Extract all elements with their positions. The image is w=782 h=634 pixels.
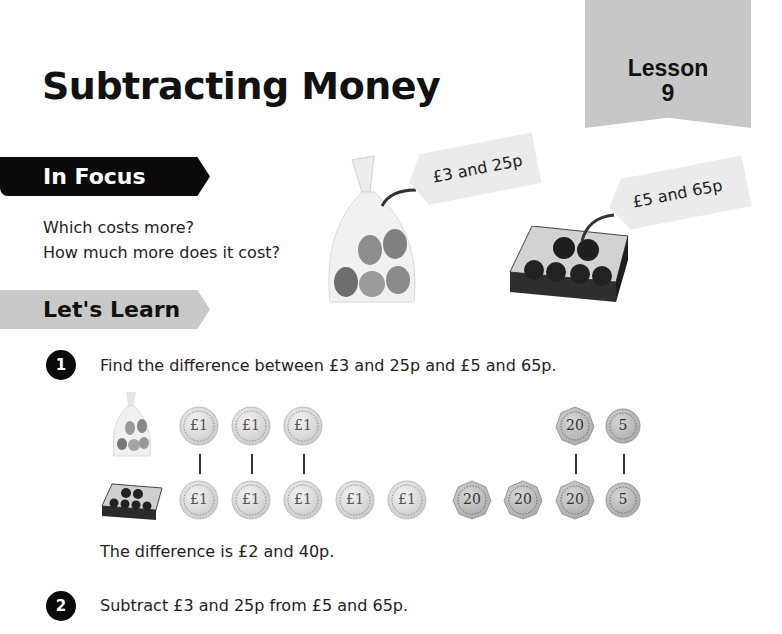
page-title: Subtracting Money [42,64,440,108]
coin-five-pence: 5 [605,406,641,446]
step-number-2: 2 [46,591,76,621]
coin-one-pound: £1 [231,480,271,520]
step-1-instruction: Find the difference between £3 and 25p a… [100,356,557,375]
in-focus-heading: In Focus [43,164,146,189]
lesson-tab: Lesson 9 [585,0,751,128]
coin-one-pound: £1 [231,406,271,446]
coin-one-pound: £1 [283,406,323,446]
apple-box-small-icon [100,482,164,524]
coin-twenty-pence: 20 [452,480,492,520]
pear-bag-small-icon [110,390,154,460]
tag-string-icon [578,205,618,245]
match-line [575,454,577,474]
coin-one-pound: £1 [283,480,323,520]
coin-twenty-pence: 20 [555,480,595,520]
price-tag-apples: £5 and 65p [604,155,751,233]
lesson-number: 9 [585,81,751,105]
match-line [623,454,625,474]
match-line [251,454,253,474]
in-focus-banner: In Focus [0,157,210,196]
coin-twenty-pence: 20 [503,480,543,520]
coin-one-pound: £1 [179,480,219,520]
price-tag-pears: £3 and 25p [404,132,542,208]
coin-five-pence: 5 [605,480,641,520]
focus-question-1: Which costs more? [43,218,194,237]
lets-learn-banner: Let's Learn [0,290,210,329]
lesson-label: Lesson [585,56,751,80]
focus-question-2: How much more does it cost? [43,243,280,262]
step-number-1: 1 [46,350,76,380]
match-line [303,454,305,474]
coin-one-pound: £1 [179,406,219,446]
pear-bag-illustration [322,152,422,312]
coin-one-pound: £1 [335,480,375,520]
step-1-result: The difference is £2 and 40p. [100,542,334,561]
lets-learn-heading: Let's Learn [43,297,180,322]
coin-one-pound: £1 [387,480,427,520]
coin-twenty-pence: 20 [555,406,595,446]
step-2-instruction: Subtract £3 and 25p from £5 and 65p. [100,596,408,615]
match-line [199,454,201,474]
